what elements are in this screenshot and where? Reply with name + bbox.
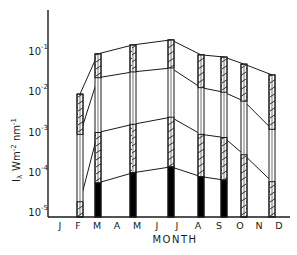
y-tick-exponent: -1 (41, 43, 48, 51)
y-tick-label: 10 (28, 46, 41, 57)
month-label: F (75, 220, 80, 231)
range-bar-f (77, 94, 83, 217)
y-tick-exponent: -4 (41, 164, 49, 172)
month-label: M (133, 220, 141, 231)
range-bar-a (198, 55, 204, 217)
month-label: J (155, 220, 159, 231)
lower-hatch-segment (221, 138, 227, 180)
month-label: S (216, 220, 222, 231)
y-tick-exponent: -2 (41, 83, 48, 91)
upper-hatch-segment (168, 40, 174, 68)
black-segment (130, 173, 136, 217)
upper-hatch-segment (198, 55, 204, 88)
upper-hatch-segment (221, 57, 227, 92)
lower-hatch-segment (241, 155, 247, 217)
y-tick-exponent: -5 (41, 204, 48, 212)
lower-hatch-segment (269, 182, 275, 217)
black-segment (168, 167, 174, 217)
month-label: J (58, 220, 62, 231)
series-line-lower_min (98, 167, 224, 183)
range-bar-m (95, 54, 101, 217)
month-label: J (175, 220, 179, 231)
month-label: M (93, 220, 101, 231)
upper-hatch-segment (130, 45, 136, 72)
month-label: N (255, 220, 262, 231)
lower-hatch-segment (130, 124, 136, 172)
y-tick-labels: 10-110-210-310-410-5 (28, 43, 48, 218)
range-bars (77, 40, 275, 217)
y-axis-title: IλWm-2 nm-1 (10, 118, 24, 182)
month-label: D (275, 220, 282, 231)
y-tick-label: 10 (28, 86, 41, 97)
range-bar-s (221, 57, 227, 217)
lower-hatch-segment (95, 133, 101, 183)
upper-hatch-segment (269, 75, 275, 129)
range-bar-o (241, 64, 247, 217)
month-label: O (236, 220, 243, 231)
month-label: A (195, 220, 202, 231)
upper-hatch-segment (77, 94, 83, 134)
lower-hatch-segment (198, 134, 204, 176)
chart-canvas: 10-110-210-310-410-5 JFMAMJJASOND MONTH … (0, 0, 297, 255)
month-label: A (114, 220, 121, 231)
uv-irradiance-chart: 10-110-210-310-410-5 JFMAMJJASOND MONTH … (0, 0, 297, 255)
lower-hatch-segment (77, 202, 83, 217)
svg-text:IλWm-2 nm-1: IλWm-2 nm-1 (10, 118, 24, 182)
upper-hatch-segment (95, 54, 101, 78)
black-segment (221, 180, 227, 217)
range-bar-j (168, 40, 174, 217)
x-tick-labels: JFMAMJJASOND (58, 220, 283, 231)
black-segment (198, 177, 204, 217)
y-tick-label: 10 (28, 127, 41, 138)
lower-hatch-segment (168, 117, 174, 167)
upper-hatch-segment (241, 64, 247, 101)
black-segment (95, 183, 101, 217)
y-tick-label: 10 (28, 207, 41, 218)
y-tick-exponent: -3 (41, 124, 48, 132)
x-axis-title: MONTH (152, 234, 197, 245)
range-bar-m (130, 45, 136, 217)
range-bar-d (269, 75, 275, 217)
y-tick-label: 10 (28, 167, 41, 178)
